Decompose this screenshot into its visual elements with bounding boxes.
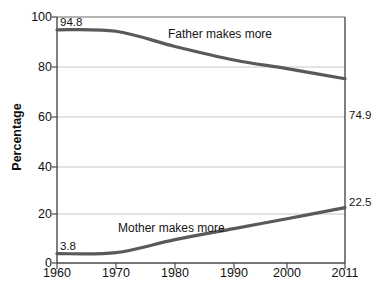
x-tick-label-1960: 1960	[43, 266, 71, 280]
data-label-mother-start: 3.8	[60, 240, 76, 252]
x-axis-tick-labels: 1960 1970 1980 1990 2000 2011	[0, 266, 380, 288]
y-axis-ticks	[52, 17, 57, 263]
x-tick-label-2011: 2011	[332, 266, 359, 280]
x-tick-label-1980: 1980	[161, 266, 189, 280]
gridlines	[57, 67, 345, 214]
x-tick-label-2000: 2000	[273, 266, 301, 280]
data-label-father-end: 74.9	[349, 109, 371, 121]
x-tick-label-1990: 1990	[220, 266, 248, 280]
series-annotation-father: Father makes more	[168, 27, 272, 41]
data-label-mother-end: 22.5	[349, 196, 371, 208]
plot-area	[0, 0, 380, 297]
x-tick-label-1970: 1970	[102, 266, 130, 280]
series-annotation-mother: Mother makes more	[118, 221, 225, 235]
line-chart: Percentage 100 80 60 40 20 0	[0, 0, 380, 297]
data-label-father-start: 94.8	[60, 16, 82, 28]
